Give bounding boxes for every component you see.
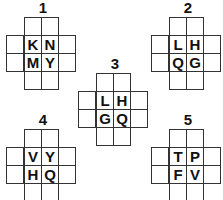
cell-top-right [41, 129, 59, 148]
cell-low-far-right [203, 53, 221, 72]
cell-letter: F [169, 165, 187, 184]
cell-mid-far-right [203, 35, 221, 54]
cell-letter: V [186, 165, 204, 184]
cell-letter: H [24, 165, 42, 184]
cell-letter: H [186, 35, 204, 54]
cell-top-right [41, 17, 59, 36]
cell-letter: G [96, 109, 114, 128]
cell-bottom-right [113, 127, 131, 146]
cell-bottom-right [186, 71, 204, 90]
puzzle-number: 4 [6, 112, 80, 128]
cell-letter: N [41, 35, 59, 54]
cell-letter: G [186, 53, 204, 72]
cell-mid-far-left [78, 91, 96, 110]
cell-letter: K [24, 35, 42, 54]
cell-low-far-right [130, 109, 148, 128]
cell-mid-far-right [130, 91, 148, 110]
cell-mid-far-left [6, 35, 24, 54]
cell-top-left [24, 17, 42, 36]
cell-top-left [169, 17, 187, 36]
cell-bottom-left [96, 127, 114, 146]
puzzle-2: 2 L H Q G [151, 0, 223, 92]
cell-letter: Y [41, 147, 59, 166]
cell-mid-far-right [58, 35, 76, 54]
cell-low-far-left [6, 53, 24, 72]
puzzle-4: 4 V Y H Q [6, 112, 80, 200]
puzzle-1: 1 K N M Y [6, 0, 80, 92]
cell-low-far-right [58, 53, 76, 72]
cell-letter: Q [41, 165, 59, 184]
cell-top-right [113, 73, 131, 92]
cell-letter: P [186, 147, 204, 166]
puzzle-number: 2 [151, 0, 223, 16]
cell-top-left [24, 129, 42, 148]
cell-low-far-left [6, 165, 24, 184]
cell-letter: V [24, 147, 42, 166]
puzzle-5: 5 T P F V [151, 112, 223, 200]
cell-letter: Q [169, 53, 187, 72]
cell-low-far-right [58, 165, 76, 184]
cell-bottom-right [41, 183, 59, 200]
puzzle-3: 3 L H G Q [78, 56, 152, 148]
cell-low-far-left [151, 53, 169, 72]
cell-letter: M [24, 53, 42, 72]
cell-letter: T [169, 147, 187, 166]
cell-top-right [186, 129, 204, 148]
cell-low-far-right [203, 165, 221, 184]
cell-top-left [169, 129, 187, 148]
cell-bottom-left [169, 71, 187, 90]
cell-bottom-right [186, 183, 204, 200]
cell-bottom-left [169, 183, 187, 200]
cell-letter: H [113, 91, 131, 110]
cell-mid-far-right [203, 147, 221, 166]
cell-bottom-left [24, 71, 42, 90]
cell-mid-far-right [58, 147, 76, 166]
puzzle-number: 3 [78, 56, 152, 72]
cell-letter: L [96, 91, 114, 110]
cell-mid-far-left [6, 147, 24, 166]
cell-bottom-left [24, 183, 42, 200]
cell-low-far-left [151, 165, 169, 184]
cell-letter: Y [41, 53, 59, 72]
cell-bottom-right [41, 71, 59, 90]
puzzle-number: 1 [6, 0, 80, 16]
cell-top-right [186, 17, 204, 36]
cell-letter: L [169, 35, 187, 54]
cell-mid-far-left [151, 147, 169, 166]
puzzle-number: 5 [151, 112, 223, 128]
cell-low-far-left [78, 109, 96, 128]
cell-top-left [96, 73, 114, 92]
cell-letter: Q [113, 109, 131, 128]
cell-mid-far-left [151, 35, 169, 54]
